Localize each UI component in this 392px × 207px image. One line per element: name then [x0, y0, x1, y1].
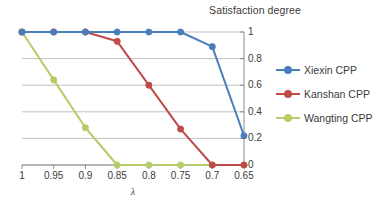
- legend-label: Wangting CPP: [304, 112, 372, 124]
- data-point: [146, 82, 152, 88]
- data-point: [146, 162, 152, 168]
- y-axis-tick-label: 0.2: [248, 133, 262, 143]
- y-axis-tick-label: 1: [248, 27, 254, 37]
- data-point: [146, 29, 152, 35]
- y-axis-tick-label: 0.4: [248, 107, 262, 117]
- x-axis-tick-label: 0.9: [78, 170, 92, 181]
- y-axis-tick-label: 0: [248, 160, 254, 170]
- chart-container: Satisfaction degree 00.20.40.60.81 10.95…: [0, 0, 392, 207]
- chart-legend: Xiexin CPPKanshan CPPWangting CPP: [276, 58, 392, 130]
- legend-marker-icon: [284, 66, 292, 74]
- data-point: [82, 125, 88, 131]
- legend-item[interactable]: Xiexin CPP: [276, 58, 392, 82]
- data-point: [241, 162, 247, 168]
- x-axis-labels: 10.950.90.850.80.750.70.65: [22, 170, 244, 184]
- series-line: [22, 32, 244, 165]
- data-point: [19, 29, 25, 35]
- x-axis-tick-label: 0.8: [142, 170, 156, 181]
- legend-label: Kanshan CPP: [304, 88, 370, 100]
- data-point: [51, 77, 57, 83]
- x-axis-tick-label: 0.95: [44, 170, 63, 181]
- plot-canvas: [22, 32, 244, 165]
- data-point: [82, 29, 88, 35]
- x-axis-tick-label: 0.65: [234, 170, 253, 181]
- legend-marker-icon: [284, 114, 292, 122]
- data-point: [177, 126, 183, 132]
- legend-label: Xiexin CPP: [304, 64, 357, 76]
- data-point: [209, 162, 215, 168]
- chart-title: Satisfaction degree: [190, 4, 320, 16]
- data-point: [177, 29, 183, 35]
- data-point: [241, 133, 247, 139]
- legend-swatch-icon: [276, 64, 300, 76]
- data-point: [209, 44, 215, 50]
- x-axis-tick-label: 0.7: [205, 170, 219, 181]
- y-axis-labels: 00.20.40.60.81: [248, 32, 278, 165]
- plot-area: [22, 32, 244, 165]
- legend-item[interactable]: Kanshan CPP: [276, 82, 392, 106]
- data-point: [51, 29, 57, 35]
- x-axis-tick-label: 1: [19, 170, 25, 181]
- data-point: [177, 162, 183, 168]
- x-axis-tick-label: 0.85: [107, 170, 126, 181]
- y-axis-tick-label: 0.6: [248, 80, 262, 90]
- x-axis-title: λ: [22, 186, 244, 197]
- series-line: [22, 32, 244, 165]
- y-axis-tick-label: 0.8: [248, 54, 262, 64]
- data-point: [114, 29, 120, 35]
- legend-swatch-icon: [276, 88, 300, 100]
- data-point: [114, 38, 120, 44]
- series-xiexin-cpp: [19, 29, 247, 139]
- legend-swatch-icon: [276, 112, 300, 124]
- x-axis-tick-label: 0.75: [171, 170, 190, 181]
- legend-marker-icon: [284, 90, 292, 98]
- data-point: [114, 162, 120, 168]
- legend-item[interactable]: Wangting CPP: [276, 106, 392, 130]
